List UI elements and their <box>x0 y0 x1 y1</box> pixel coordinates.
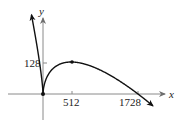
max-point <box>70 60 74 64</box>
x-tick-label-512: 512 <box>63 96 80 108</box>
x-axis-label: x <box>168 88 174 100</box>
x-tick-label-1728: 1728 <box>119 96 142 108</box>
curve-left-branch <box>31 15 43 94</box>
y-axis-label: y <box>38 5 44 17</box>
chart-canvas: y x 128 512 1728 <box>0 0 180 127</box>
origin-point <box>41 92 45 96</box>
